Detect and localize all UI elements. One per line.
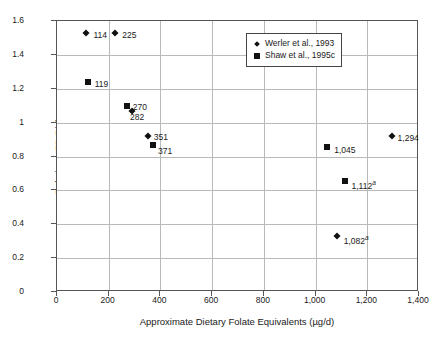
x-tick-label: 800: [238, 296, 288, 305]
diamond-marker-icon: [252, 39, 262, 48]
x-tick-mark: [418, 291, 419, 296]
data-point-square: [324, 144, 330, 150]
scatter-chart: Relative NTD Risk 00.20.40.60.811.21.41.…: [0, 0, 446, 345]
data-point-label: 1,082a: [344, 235, 369, 245]
y-tick-label: 1.6: [0, 16, 24, 25]
x-tick-label: 1,200: [341, 296, 391, 305]
data-point-label: 270: [133, 103, 147, 112]
gridline-vertical: [212, 21, 213, 290]
y-tick-label: 0.2: [0, 253, 24, 262]
diamond-glyph: [254, 41, 260, 47]
x-tick-mark: [56, 291, 57, 296]
y-tick-label: 1.2: [0, 84, 24, 93]
legend-label: Werler et al., 1993: [265, 37, 334, 49]
data-point-diamond: [112, 29, 119, 36]
x-tick-mark: [159, 291, 160, 296]
x-tick-label: 1,000: [290, 296, 340, 305]
x-axis-title: Approximate Dietary Folate Equivalents (…: [56, 316, 418, 327]
y-tick-label: 1: [0, 117, 24, 126]
x-tick-label: 400: [134, 296, 184, 305]
y-tick-label: 1.4: [0, 50, 24, 59]
data-point-diamond: [333, 233, 340, 240]
y-tick-label: 0.4: [0, 219, 24, 228]
data-point-diamond: [388, 133, 395, 140]
footnote-marker: a: [365, 234, 369, 241]
data-point-square: [342, 178, 348, 184]
x-tick-label: 600: [186, 296, 236, 305]
gridline-vertical: [109, 21, 110, 290]
square-glyph: [254, 53, 260, 59]
y-tick-label: 0: [0, 287, 24, 296]
data-point-label: 119: [95, 80, 109, 89]
legend: Werler et al., 1993Shaw et al., 1995c: [246, 33, 342, 67]
data-point-label: 351: [154, 133, 168, 142]
data-point-square: [85, 79, 91, 85]
data-point-label: 225: [122, 31, 136, 40]
data-point-label: 371: [158, 147, 172, 156]
legend-item: Werler et al., 1993: [252, 37, 335, 49]
x-tick-label: 1,400: [393, 296, 443, 305]
data-point-label: 1,112a: [352, 180, 376, 190]
x-tick-mark: [315, 291, 316, 296]
x-tick-label: 200: [83, 296, 133, 305]
data-point-diamond: [144, 133, 151, 140]
x-tick-mark: [366, 291, 367, 296]
legend-label: Shaw et al., 1995c: [265, 49, 335, 61]
x-tick-mark: [108, 291, 109, 296]
data-point-diamond: [83, 29, 90, 36]
legend-item: Shaw et al., 1995c: [252, 49, 335, 61]
plot-area: 1142252823511,082a1,2941192703711,0451,1…: [56, 20, 418, 291]
data-point-label: 114: [93, 31, 107, 40]
x-tick-label: 0: [31, 296, 81, 305]
data-point-square: [150, 142, 156, 148]
footnote-marker: a: [372, 179, 376, 186]
data-point-label: 1,045: [334, 146, 355, 155]
square-marker-icon: [252, 51, 262, 60]
data-point-square: [124, 103, 130, 109]
gridline-horizontal: [57, 55, 417, 56]
gridline-horizontal: [57, 157, 417, 158]
y-tick-label: 0.8: [0, 151, 24, 160]
x-tick-mark: [211, 291, 212, 296]
gridline-horizontal: [57, 224, 417, 225]
gridline-horizontal: [57, 123, 417, 124]
gridline-horizontal: [57, 258, 417, 259]
data-point-label: 282: [130, 113, 144, 122]
gridline-horizontal: [57, 89, 417, 90]
data-point-label: 1,294: [398, 134, 419, 143]
x-tick-mark: [263, 291, 264, 296]
y-tick-label: 0.6: [0, 185, 24, 194]
gridline-vertical: [367, 21, 368, 290]
